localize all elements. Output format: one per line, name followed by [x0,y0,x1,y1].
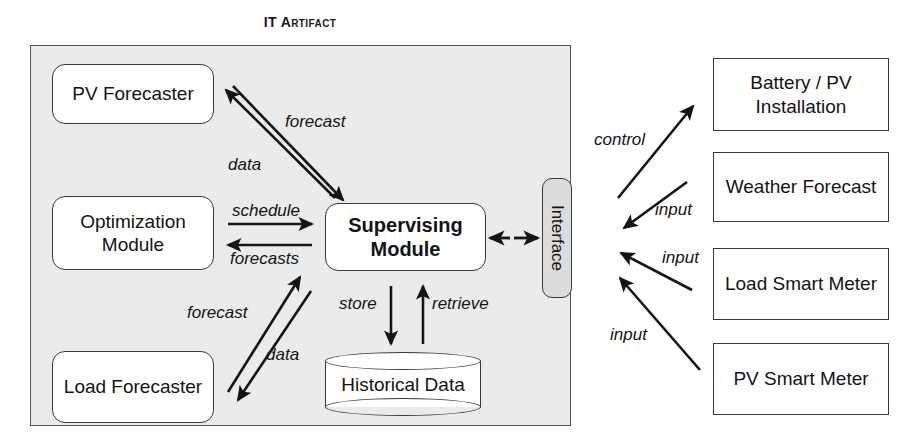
module-label: Load Forecaster [64,375,202,398]
edge-label-data-pv: data [228,155,261,175]
edge-label-data-load: data [266,345,299,365]
module-label: Optimization Module [53,210,213,256]
module-label: Supervising Module [326,213,485,262]
arrow-input-pv-meter [620,278,700,370]
external-box-label: PV Smart Meter [733,367,868,391]
external-box-pv-smart-meter[interactable]: PV Smart Meter [713,343,889,415]
module-supervising[interactable]: Supervising Module [325,203,486,271]
external-box-weather-forecast[interactable]: Weather Forecast [713,152,889,222]
external-box-label: Load Smart Meter [725,272,877,296]
external-box-load-smart-meter[interactable]: Load Smart Meter [713,248,889,320]
external-box-label: Battery / PV Installation [714,71,888,119]
datastore-historical-data[interactable]: Historical Data [325,352,481,416]
interface-label: Interface [547,205,567,271]
edge-label-store: store [339,294,377,314]
module-label: PV Forecaster [72,82,193,105]
edge-label-forecasts: forecasts [230,249,299,269]
external-box-label: Weather Forecast [726,175,877,199]
edge-label-input-weather: input [655,200,692,220]
module-pv-forecaster[interactable]: PV Forecaster [52,64,214,124]
edge-label-input-pv-meter: input [610,325,647,345]
external-box-battery-pv-installation[interactable]: Battery / PV Installation [713,58,889,131]
page-title: IT Artifact [0,14,600,30]
edge-label-forecast-load: forecast [187,303,247,323]
module-optimization[interactable]: Optimization Module [52,196,214,270]
edge-label-control: control [594,130,645,150]
interface-box[interactable]: Interface [542,178,572,298]
edge-label-forecast-pv: forecast [285,112,345,132]
edge-label-retrieve: retrieve [432,294,489,314]
datastore-label: Historical Data [325,364,481,406]
edge-label-input-load-meter: input [662,248,699,268]
module-load-forecaster[interactable]: Load Forecaster [52,351,214,423]
edge-label-schedule: schedule [232,201,300,221]
diagram-canvas: IT Artifact [0,0,918,443]
arrow-control [618,106,693,198]
